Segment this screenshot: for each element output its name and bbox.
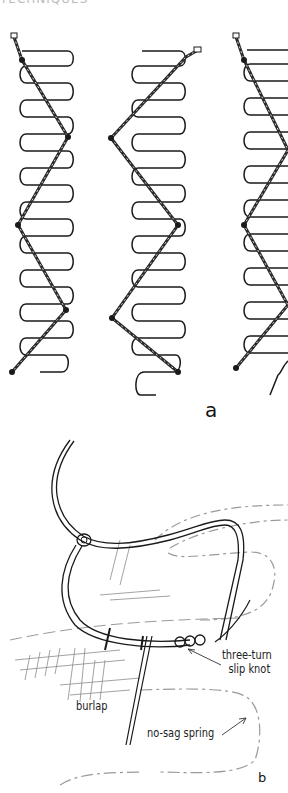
burlap-annotation: burlap xyxy=(76,699,108,713)
slip-knot-label-line2: slip knot xyxy=(222,662,272,676)
slip-knot-annotation: three-turn slip knot xyxy=(222,648,272,676)
figure-a-label: a xyxy=(205,398,217,422)
slip-knot-label-line1: three-turn xyxy=(222,648,272,662)
spring-middle xyxy=(108,47,201,395)
no-sag-spring-annotation: no-sag spring xyxy=(147,726,214,740)
figure-b-label: b xyxy=(258,770,266,785)
spring-right xyxy=(233,33,288,395)
spring-left xyxy=(9,33,73,375)
